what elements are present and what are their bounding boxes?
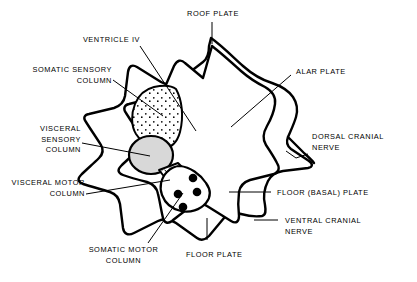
label-dorsal-cranial-nerve: DORSAL CRANIAL NERVE [312, 132, 417, 153]
neural-tube-cross-section-figure: ROOF PLATE VENTRICLE IV SOMATIC SENSORY … [0, 0, 417, 282]
motor-neuron-dot [189, 174, 198, 183]
label-somatic-sensory-column: SOMATIC SENSORY COLUMN [4, 65, 112, 86]
label-ventral-cranial-nerve: VENTRAL CRANIAL NERVE [285, 216, 405, 237]
label-ventricle-iv: VENTRICLE IV [35, 35, 140, 46]
label-visceral-motor-column: VISCERAL MOTOR COLUMN [4, 178, 85, 199]
motor-neuron-dot [193, 188, 202, 197]
label-roof-plate: ROOF PLATE [168, 9, 258, 20]
label-floor-plate: FLOOR PLATE [186, 250, 276, 261]
label-alar-plate: ALAR PLATE [296, 67, 386, 78]
label-somatic-motor-column: SOMATIC MOTOR COLUMN [71, 245, 176, 266]
label-floor-basal-plate: FLOOR (BASAL) PLATE [277, 188, 412, 199]
label-visceral-sensory-column: VISCERAL SENSORY COLUMN [4, 124, 81, 156]
motor-neuron-dot [174, 190, 183, 199]
motor-neuron-dot [179, 203, 188, 212]
